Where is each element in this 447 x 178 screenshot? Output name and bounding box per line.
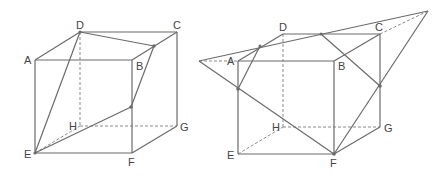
- point-on-BC: [152, 44, 156, 48]
- cube-diagrams: A B C D E F G H: [0, 0, 447, 178]
- point-on-AD: [259, 45, 262, 48]
- label-E: E: [227, 149, 234, 161]
- label-E: E: [24, 148, 31, 160]
- section-D-P: [80, 32, 154, 46]
- edge-FG: [132, 126, 177, 153]
- edge-FG: [334, 127, 380, 154]
- label-G: G: [384, 122, 393, 134]
- label-C: C: [173, 19, 181, 31]
- edge-BC: [334, 34, 380, 61]
- section-AD-to-AE: [238, 46, 260, 89]
- right-cube: A B C D E F G H: [199, 11, 428, 169]
- triangle-top-line: [199, 11, 428, 61]
- point-on-DC: [320, 33, 323, 36]
- left-cube: A B C D E F G H: [24, 19, 189, 168]
- edge-AD: [35, 32, 80, 60]
- label-F: F: [128, 156, 135, 168]
- label-G: G: [180, 121, 189, 133]
- label-F: F: [330, 157, 337, 169]
- label-B: B: [338, 60, 345, 72]
- label-A: A: [227, 55, 235, 67]
- point-F: [332, 152, 336, 156]
- label-D: D: [76, 19, 84, 31]
- label-D: D: [279, 21, 287, 33]
- point-E: [33, 151, 36, 154]
- label-H: H: [69, 120, 77, 132]
- label-C: C: [375, 21, 383, 33]
- point-on-CG: [378, 84, 382, 88]
- triangle-left-line: [199, 61, 334, 154]
- section-P-Q: [131, 46, 154, 107]
- point-on-AE: [236, 87, 240, 91]
- diagram-stage: A B C D E F G H: [0, 0, 447, 178]
- label-A: A: [24, 54, 32, 66]
- label-H: H: [272, 121, 280, 133]
- point-on-BF: [129, 105, 133, 109]
- label-B: B: [136, 60, 143, 72]
- section-DC-to-CG: [321, 34, 380, 86]
